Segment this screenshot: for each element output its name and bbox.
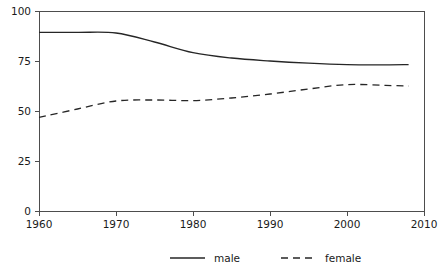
legend-label-male: male	[214, 252, 240, 264]
y-tick-label: 0	[24, 205, 31, 217]
y-tick-label: 75	[18, 55, 31, 67]
x-tick-label: 1970	[103, 218, 130, 230]
series-line-male	[39, 32, 409, 65]
chart-container: 0255075100 196019701980199020002010 male…	[0, 0, 442, 272]
x-tick-label: 2000	[334, 218, 361, 230]
plot-frame	[39, 11, 424, 211]
legend-label-female: female	[325, 252, 361, 264]
y-tick-label: 100	[11, 5, 31, 17]
x-tick-label: 1960	[26, 218, 53, 230]
chart-legend: malefemale	[170, 252, 361, 264]
y-axis-ticks: 0255075100	[11, 5, 39, 217]
x-tick-label: 1980	[180, 218, 207, 230]
y-tick-label: 25	[18, 155, 31, 167]
x-tick-label: 2010	[411, 218, 438, 230]
line-chart: 0255075100 196019701980199020002010 male…	[0, 0, 442, 272]
y-tick-label: 50	[18, 105, 31, 117]
series-line-female	[39, 84, 409, 117]
x-axis-ticks: 196019701980199020002010	[26, 211, 438, 230]
data-series-group	[39, 32, 409, 117]
x-tick-label: 1990	[257, 218, 284, 230]
